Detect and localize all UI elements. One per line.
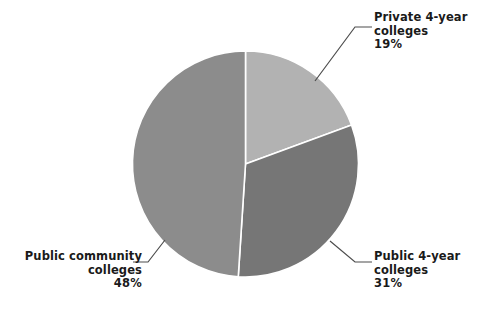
slice-label-private-4-year: Private 4-year colleges 19% — [374, 11, 468, 52]
slice-label-public-community-line2: colleges — [25, 264, 142, 278]
slice-label-public-community-line1: Public community — [25, 250, 142, 264]
slice-label-public-4-year-line1: Public 4-year — [374, 250, 460, 264]
slice-label-public-community: Public community colleges 48% — [25, 250, 142, 291]
pie-chart-figure: Private 4-year colleges 19% Public 4-yea… — [0, 0, 479, 311]
pie-slice-public-community[interactable] — [132, 51, 245, 277]
leader-line-public-4-year — [330, 241, 372, 262]
slice-label-public-4-year: Public 4-year colleges 31% — [374, 250, 460, 291]
slice-label-private-4-year-line2: colleges — [374, 25, 468, 39]
slice-value-private-4-year: 19% — [374, 38, 468, 52]
slice-label-private-4-year-line1: Private 4-year — [374, 11, 468, 25]
slice-value-public-4-year: 31% — [374, 277, 460, 291]
leader-line-private-4-year — [315, 27, 372, 81]
slice-label-public-4-year-line2: colleges — [374, 264, 460, 278]
slice-value-public-community: 48% — [25, 277, 142, 291]
